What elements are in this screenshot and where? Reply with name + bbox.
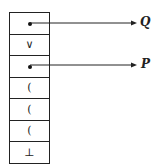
arrows: [0, 0, 157, 168]
label-p: P: [141, 57, 150, 71]
arrow-to-p: [30, 63, 137, 68]
arrow-to-q: [30, 21, 137, 26]
label-q: Q: [140, 15, 150, 29]
